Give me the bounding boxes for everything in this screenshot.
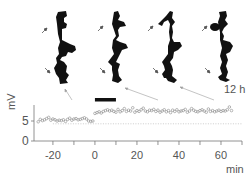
dendrite-panel-4 — [210, 11, 233, 82]
stimulus-bar — [95, 98, 116, 102]
data-point — [123, 107, 126, 110]
data-point — [142, 107, 145, 110]
data-point — [176, 109, 179, 112]
y-tick-label: 5 — [22, 115, 29, 127]
data-point — [230, 109, 233, 112]
data-point — [121, 109, 124, 112]
y-axis-label: mV — [6, 90, 17, 110]
data-point — [205, 111, 208, 114]
x-tick-label: 0 — [92, 150, 98, 161]
x-tick-label: 60 — [215, 150, 227, 161]
data-point — [68, 117, 71, 120]
data-point — [152, 108, 155, 111]
data-point — [169, 111, 172, 114]
panel-4-time-label: 12 h — [224, 84, 245, 95]
dendrite-panel-1 — [54, 11, 76, 84]
data-point — [37, 121, 40, 124]
data-point — [226, 109, 229, 112]
figure-canvas — [0, 0, 251, 178]
data-point — [163, 109, 166, 112]
connector-lines — [65, 87, 214, 100]
data-point — [157, 109, 160, 112]
plot-area — [31, 98, 242, 145]
data-point — [47, 116, 50, 119]
x-tick-label: 40 — [173, 150, 185, 161]
x-tick-label: 20 — [131, 150, 143, 161]
data-point — [188, 110, 191, 113]
x-axis-label: min — [226, 164, 244, 175]
data-point — [184, 108, 187, 111]
data-point — [207, 108, 210, 111]
y-tick-label: 0 — [22, 135, 29, 147]
x-tick-label: -20 — [45, 150, 61, 161]
dendrite-panel-3 — [158, 11, 182, 83]
data-point — [167, 109, 170, 112]
data-point — [64, 120, 67, 123]
data-point — [117, 108, 120, 111]
figure: 12 h mV min 05 -200204060 — [0, 0, 251, 178]
dendrite-panel-2 — [108, 11, 128, 83]
data-point — [228, 106, 231, 109]
data-point — [85, 118, 88, 121]
data-point — [131, 107, 134, 110]
